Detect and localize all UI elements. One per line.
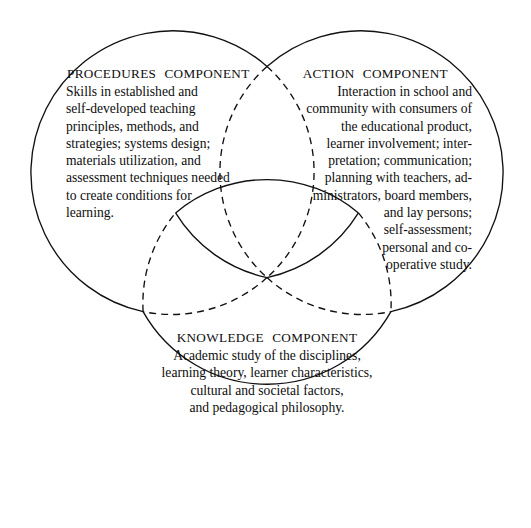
text-line: pretation; communication;	[210, 152, 472, 169]
venn-diagram-figure: PROCEDURES COMPONENT Skills in establish…	[0, 0, 531, 528]
text-line: operative study.	[210, 256, 472, 273]
action-component-text: ACTION COMPONENT Interaction in school a…	[210, 66, 472, 273]
text-line: and pedagogical philosophy.	[117, 399, 417, 416]
text-line: self-assessment;	[210, 221, 472, 238]
text-line: cultural and societal factors,	[117, 382, 417, 399]
knowledge-component-body: Academic study of the disciplines, learn…	[117, 347, 417, 416]
action-component-heading: ACTION COMPONENT	[210, 66, 472, 82]
text-line: learner involvement; inter-	[210, 135, 472, 152]
action-component-body: Interaction in school and community with…	[210, 83, 472, 273]
text-line: the educational product,	[210, 118, 472, 135]
text-line: Interaction in school and	[210, 83, 472, 100]
text-line: learning theory, learner characteristics…	[117, 364, 417, 381]
procedures-circle-arc-in-knowledge-lens	[143, 278, 267, 315]
action-circle-arc-in-knowledge-lens	[267, 278, 391, 315]
text-line: and lay persons;	[210, 204, 472, 221]
knowledge-component-text: KNOWLEDGE COMPONENT Academic study of th…	[117, 330, 417, 416]
knowledge-component-heading: KNOWLEDGE COMPONENT	[117, 330, 417, 346]
text-line: personal and co-	[210, 239, 472, 256]
text-line: community with consumers of	[210, 100, 472, 117]
text-line: Academic study of the disciplines,	[117, 347, 417, 364]
text-line: ministrators, board members,	[210, 187, 472, 204]
text-line: planning with teachers, ad-	[210, 169, 472, 186]
knowledge-circle-arc-in-procedures-lens	[143, 213, 176, 312]
